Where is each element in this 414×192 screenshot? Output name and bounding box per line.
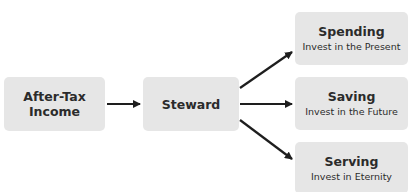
arrow-steward-to-spending [240, 52, 292, 88]
node-title: Income [29, 104, 80, 119]
node-serving: Serving Invest in Eternity [295, 142, 408, 192]
arrow-steward-to-serving [240, 120, 292, 159]
node-saving: Saving Invest in the Future [295, 77, 408, 130]
node-subtitle: Invest in the Present [303, 40, 401, 53]
node-title: After-Tax [23, 89, 86, 104]
node-title: Spending [318, 24, 384, 39]
node-title: Saving [328, 89, 376, 104]
node-steward: Steward [143, 77, 239, 131]
node-after-tax-income: After-Tax Income [4, 77, 105, 131]
node-title: Serving [325, 154, 379, 169]
node-title: Steward [162, 97, 221, 112]
node-subtitle: Invest in the Future [305, 105, 398, 118]
node-subtitle: Invest in Eternity [311, 170, 392, 183]
node-spending: Spending Invest in the Present [295, 12, 408, 65]
